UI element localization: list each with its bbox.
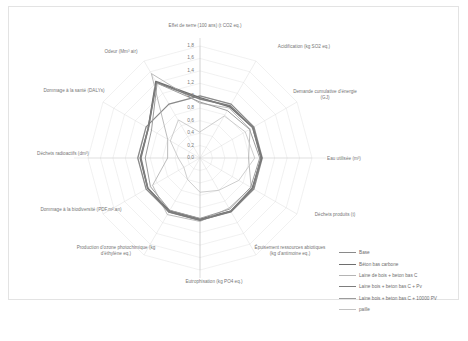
axis-label-epuisement-ressources: Épuisement ressources abiotiques (kg d'a… <box>252 245 328 256</box>
legend-label: Laine bois + beton bas C + Pv <box>359 284 422 289</box>
legend-label: Base <box>359 250 370 255</box>
radial-tick-label: 0,6 <box>178 118 194 123</box>
legend-item[interactable]: paille <box>339 304 468 315</box>
legend-label: Laine bois + beton bas C + 10000 PV <box>359 296 437 301</box>
radial-tick-label: 1,8 <box>178 43 194 48</box>
legend-item[interactable]: Béton bas carbone <box>339 258 468 269</box>
axis-label-acidification: Acidification (kg SO2 eq.) <box>262 44 346 50</box>
radial-tick-label: 1,2 <box>178 80 194 85</box>
legend-color-swatch <box>339 298 356 299</box>
axis-label-dommage-sante: Dommage à la santé (DALYs) <box>36 88 112 94</box>
chart-legend: BaseBéton bas carboneLaine de bois + bet… <box>339 247 468 315</box>
axis-label-odeur: Odeur (Mm³ air) <box>83 49 159 55</box>
radial-tick-label: 1,6 <box>178 55 194 60</box>
axis-label-effet-de-serre: Effet de serre (100 ans) (t CO2 eq.) <box>159 23 251 29</box>
legend-item[interactable]: Laine bois + beton bas C + Pv <box>339 281 468 292</box>
legend-label: Béton bas carbone <box>359 262 398 267</box>
radial-tick-label: 1,0 <box>178 93 194 98</box>
radial-tick-label: 0,4 <box>178 130 194 135</box>
axis-label-ozone-photochimique: Production d'ozone photochimique (kg d'é… <box>75 245 157 256</box>
legend-item[interactable]: Laine de bois + beton bas C <box>339 270 468 281</box>
radial-tick-label: 0,0 <box>178 155 194 160</box>
legend-label: Laine de bois + beton bas C <box>359 273 418 278</box>
axis-label-dechets-produits: Déchets produits (t) <box>297 212 373 218</box>
axis-label-biodiversite: Dommage à la biodiversité (PDF.m².an) <box>39 207 123 213</box>
axis-label-demande-energie: Demande cumulative d'énergie (GJ) <box>290 89 360 100</box>
legend-color-swatch <box>339 264 356 265</box>
legend-item[interactable]: Base <box>339 247 468 258</box>
legend-color-swatch <box>339 275 356 276</box>
radial-tick-label: 0,8 <box>178 105 194 110</box>
legend-label: paille <box>359 307 370 312</box>
axis-label-eutrophisation: Eutrophisation (kg PO4 eq.) <box>173 279 255 285</box>
legend-color-swatch <box>339 286 356 287</box>
radar-chart-frame: Effet de serre (100 ans) (t CO2 eq.) Aci… <box>8 6 459 300</box>
legend-color-swatch <box>339 309 356 310</box>
legend-color-swatch <box>339 252 356 253</box>
legend-item[interactable]: Laine bois + beton bas C + 10000 PV <box>339 293 468 304</box>
axis-label-eau-utilisee: Eau utilisée (m³) <box>309 156 379 162</box>
axis-label-dechets-radioactifs: Déchets radioactifs (dm³) <box>25 151 101 157</box>
radial-tick-label: 0,2 <box>178 143 194 148</box>
radial-tick-label: 1,4 <box>178 68 194 73</box>
